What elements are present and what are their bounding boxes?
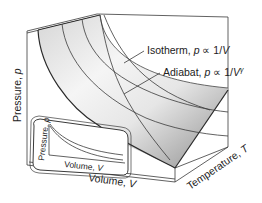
temperature-axis-label: Temperature, T	[184, 141, 251, 192]
adiabat-label: Adiabat, p ∝ 1/Vγ	[163, 66, 244, 78]
pressure-axis-label: Pressure, p	[11, 68, 23, 122]
isotherm-label: Isotherm, p ∝ 1/V	[147, 44, 230, 56]
pvt-surface-diagram: Isotherm, p ∝ 1/V Adiabat, p ∝ 1/Vγ Pres…	[0, 0, 262, 203]
